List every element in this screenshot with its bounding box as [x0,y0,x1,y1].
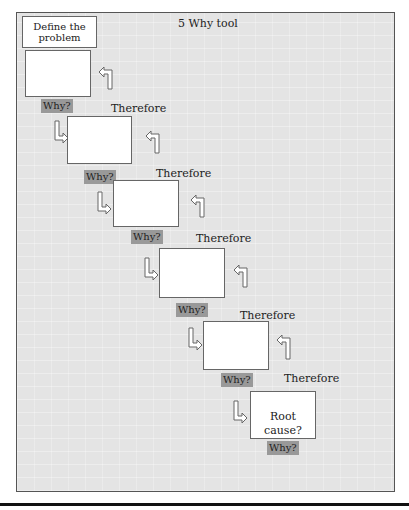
up-left-arrow-icon [145,129,161,155]
why-tag: Why? [176,303,208,317]
therefore-label: Therefore [284,372,339,385]
step-box [113,180,179,227]
why-tag: Why? [131,230,163,244]
up-left-arrow-icon [98,65,114,91]
why-tag: Why? [84,170,116,184]
down-right-arrow-icon [143,256,159,282]
root-cause-box: Rootcause? [250,391,316,439]
final-why-tag: Why? [267,441,299,455]
down-right-arrow-icon [232,399,248,425]
therefore-label: Therefore [111,102,166,115]
therefore-label: Therefore [196,232,251,245]
step-box [67,116,132,164]
up-left-arrow-icon [190,193,206,219]
step-box [159,248,225,298]
diagram-title: 5 Why tool [178,17,238,30]
problem-box [25,50,91,97]
why-tag: Why? [221,373,253,387]
step-box [203,321,269,370]
therefore-label: Therefore [156,167,211,180]
down-right-arrow-icon [96,190,112,216]
up-left-arrow-icon [276,333,292,361]
define-problem-label: Define the problem [22,16,97,48]
up-left-arrow-icon [233,263,249,289]
bottom-rule [0,503,409,506]
down-right-arrow-icon [187,326,203,352]
why-tag: Why? [41,99,73,113]
